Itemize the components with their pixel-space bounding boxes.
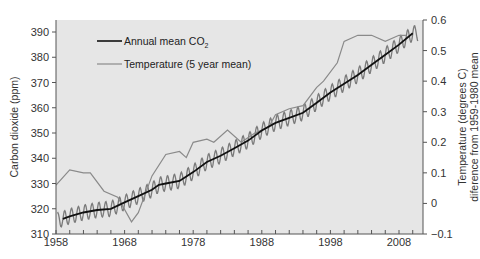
y2-tick-label: 0.3 — [431, 106, 446, 118]
y-tick-label: 360 — [31, 102, 49, 114]
y2-tick-label: −0.1 — [431, 228, 453, 240]
y2-tick-label: 0.2 — [431, 136, 446, 148]
y2-tick-label: 0.6 — [431, 14, 446, 26]
x-tick-label: 1968 — [112, 236, 136, 248]
y2-tick-label: 0.4 — [431, 75, 446, 87]
legend-label-temperature: Temperature (5 year mean) — [124, 58, 251, 70]
co2-temperature-chart: 1958196819781988199820083103203303403503… — [0, 0, 480, 259]
x-tick-label: 2008 — [387, 236, 411, 248]
y2-axis-title-line2: diference from 1959-1980 mean — [468, 52, 480, 202]
y-axis-title: Carbon dioxide (ppm) — [8, 77, 20, 178]
x-tick-label: 1978 — [181, 236, 205, 248]
legend-label-co2: Annual mean CO2 — [124, 35, 209, 49]
y-tick-label: 320 — [31, 203, 49, 215]
y-tick-label: 330 — [31, 178, 49, 190]
y-tick-label: 380 — [31, 51, 49, 63]
y-tick-label: 370 — [31, 77, 49, 89]
y-tick-label: 350 — [31, 127, 49, 139]
y-tick-label: 310 — [31, 228, 49, 240]
x-tick-label: 1998 — [318, 236, 342, 248]
y2-tick-label: 0.5 — [431, 45, 446, 57]
x-tick-label: 1988 — [250, 236, 274, 248]
y-tick-label: 340 — [31, 152, 49, 164]
y-tick-label: 390 — [31, 26, 49, 38]
y2-tick-label: 0 — [431, 197, 437, 209]
y2-axis-title-line1: Temperature (degrees C) — [456, 68, 468, 185]
plot-area — [56, 20, 423, 234]
y2-tick-label: 0.1 — [431, 167, 446, 179]
